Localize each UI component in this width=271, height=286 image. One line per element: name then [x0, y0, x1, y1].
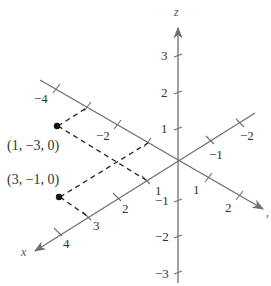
y-axis-label: ,: [266, 205, 269, 219]
y-tick-label: −2: [96, 128, 110, 143]
projection-lines: [58, 107, 148, 216]
y-tick-label: 1: [193, 182, 200, 197]
x-axis: [35, 113, 255, 251]
z-tick-label: −3: [155, 266, 169, 281]
z-tick-label: 1: [161, 121, 168, 136]
x-tick-label: −1: [209, 147, 223, 162]
x-tick-label: 1: [155, 183, 162, 198]
x-tick-label: 4: [63, 236, 70, 251]
y-tick-label: −4: [34, 91, 48, 106]
y-axis: [40, 80, 263, 209]
z-tick-label: 3: [161, 48, 168, 63]
z-axis: [174, 28, 182, 283]
x-axis-label: x: [20, 245, 27, 259]
y-tick-label: 2: [225, 200, 232, 215]
point-label: (3, −1, 0): [7, 172, 60, 188]
x-tick-label: −2: [240, 128, 254, 143]
x-tick-label: 2: [122, 201, 129, 216]
z-tick-label: 2: [161, 85, 168, 100]
point-label: (1, −3, 0): [7, 138, 60, 154]
point-1-neg3-0: [54, 123, 60, 129]
coordinate-diagram: z x , 3 2 1 −1 −2 −3 −4 −2 1 2 1 2 3 4 −…: [0, 0, 271, 286]
x-tick-label: 3: [93, 218, 100, 233]
z-axis-label: z: [173, 5, 179, 19]
point-3-neg1-0: [56, 194, 62, 200]
z-tick-label: −2: [155, 229, 169, 244]
